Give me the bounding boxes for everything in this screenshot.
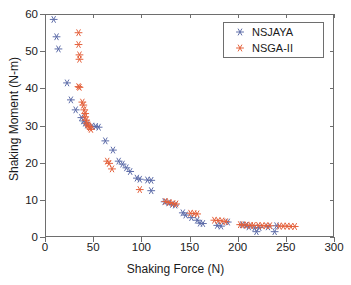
- y-tick-label: 30: [25, 120, 38, 132]
- y-tick-right: [330, 51, 334, 52]
- y-tick: [40, 51, 45, 52]
- y-tick-right: [330, 126, 334, 127]
- y-tick-label: 50: [25, 45, 38, 57]
- y-tick-right: [330, 88, 334, 89]
- x-tick-top: [141, 14, 142, 18]
- x-axis-label: Shaking Force (N): [0, 262, 351, 276]
- y-tick-label: 10: [25, 194, 38, 206]
- y-tick-right: [330, 163, 334, 164]
- x-tick-top: [334, 14, 335, 18]
- x-tick-label: 300: [324, 241, 343, 253]
- x-tick-top: [190, 14, 191, 18]
- y-tick-label: 0: [32, 231, 38, 243]
- legend-label: NSJAYA: [252, 26, 325, 38]
- x-tick-top: [238, 14, 239, 18]
- x-tick-top: [286, 14, 287, 18]
- y-tick: [40, 163, 45, 164]
- legend-item-nsga-ii[interactable]: NSGA-II: [224, 40, 325, 56]
- figure: 0102030405060050100150200250300 Shaking …: [0, 0, 351, 285]
- y-tick-label: 20: [25, 157, 38, 169]
- y-tick-right: [330, 200, 334, 201]
- y-tick-label: 60: [25, 8, 38, 20]
- legend[interactable]: NSJAYA NSGA-II: [223, 22, 324, 58]
- y-axis-label: Shaking Moment (N-m): [7, 9, 21, 229]
- nsga-ii-marker-icon: [224, 40, 252, 56]
- x-tick-top: [93, 14, 94, 18]
- x-tick-label: 150: [180, 241, 199, 253]
- y-tick: [40, 200, 45, 201]
- x-tick-top: [45, 14, 46, 18]
- y-tick-label: 40: [25, 82, 38, 94]
- x-tick-label: 200: [228, 241, 247, 253]
- x-tick-label: 0: [42, 241, 48, 253]
- y-tick: [40, 88, 45, 89]
- x-tick-label: 250: [276, 241, 295, 253]
- legend-item-nsjaya[interactable]: NSJAYA: [224, 24, 325, 40]
- y-tick: [40, 126, 45, 127]
- nsjaya-marker-icon: [224, 24, 252, 40]
- x-tick-label: 100: [132, 241, 151, 253]
- legend-label: NSGA-II: [252, 42, 325, 54]
- x-tick-label: 50: [87, 241, 100, 253]
